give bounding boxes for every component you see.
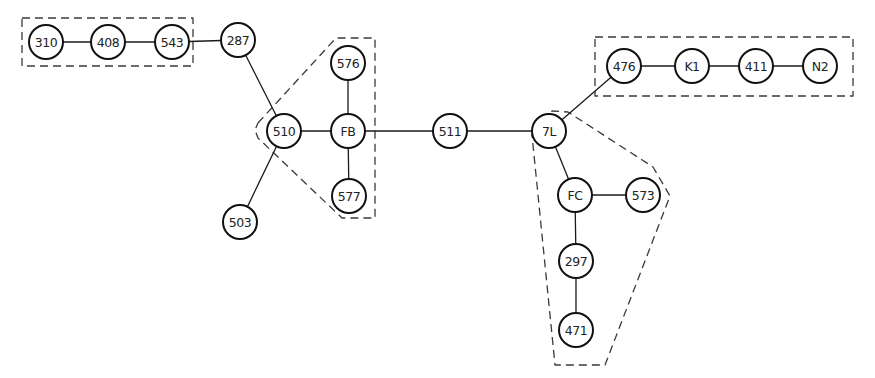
node-label: FC [568,188,584,203]
node-476: 476 [607,49,641,83]
node-297: 297 [559,244,593,278]
nodes: 310408543287510503FB5765775117L476K1411N… [29,23,837,347]
node-label: 287 [227,33,249,48]
node-label: 510 [273,124,296,139]
node-label: 476 [613,59,636,74]
node-N2: N2 [803,49,837,83]
node-label: 310 [35,35,58,50]
node-label: K1 [684,59,699,74]
node-label: 297 [565,254,587,269]
node-label: 511 [439,124,461,139]
node-K1: K1 [675,49,709,83]
node-label: 471 [565,323,587,338]
node-287: 287 [221,23,255,57]
group-outlines [22,18,853,365]
node-label: 408 [97,35,120,50]
node-label: 573 [632,188,654,203]
node-408: 408 [91,25,125,59]
node-7L: 7L [532,114,566,148]
node-543: 543 [155,25,189,59]
node-573: 573 [626,178,660,212]
node-label: N2 [812,59,828,74]
node-label: 7L [542,124,556,139]
node-label: 411 [745,59,767,74]
edges [46,40,820,330]
node-510: 510 [267,114,301,148]
network-diagram: 310408543287510503FB5765775117L476K1411N… [0,0,875,378]
node-576: 576 [331,46,365,80]
node-411: 411 [739,49,773,83]
node-label: 576 [337,56,360,71]
node-577: 577 [332,179,366,213]
node-310: 310 [29,25,63,59]
node-471: 471 [559,313,593,347]
node-label: 543 [161,35,183,50]
node-503: 503 [223,205,257,239]
node-label: FB [341,124,356,139]
node-label: 503 [229,215,251,230]
node-511: 511 [433,114,467,148]
node-label: 577 [338,189,360,204]
group-fc-outline [532,111,670,365]
node-FC: FC [558,178,592,212]
node-FB: FB [331,114,365,148]
